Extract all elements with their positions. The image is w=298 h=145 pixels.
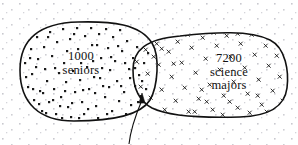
right-set-count: 7200 [196, 52, 262, 66]
left-set-count: 1000 [48, 50, 114, 64]
venn-diagram-figure: 1000 seniors 7200 science majors [0, 0, 298, 145]
right-set-label: 7200 science majors [196, 52, 262, 93]
left-set-noun: seniors [48, 64, 114, 78]
left-set-label: 1000 seniors [48, 50, 114, 77]
right-set-noun-2: majors [196, 79, 262, 93]
right-set-noun: science [196, 66, 262, 80]
